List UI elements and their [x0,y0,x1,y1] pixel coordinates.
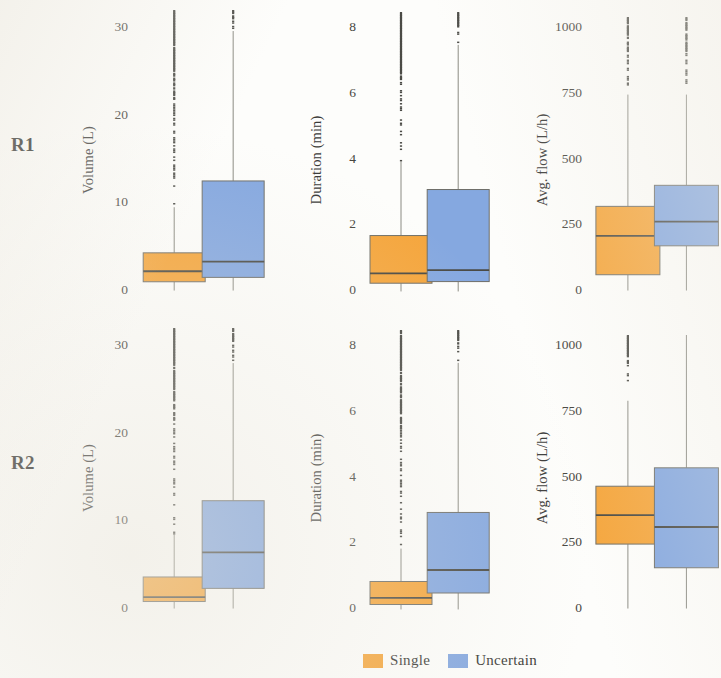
ytick-label: 30 [68,337,128,353]
panel-r1-volume-l [134,4,268,313]
axis-title-r2-0: Volume (L) [80,444,97,512]
ytick-label: 750 [522,403,582,419]
ytick-label: 8 [296,337,356,353]
ytick-label: 750 [522,85,582,101]
ytick-label: 0 [522,600,582,616]
ytick-label: 0 [296,282,356,298]
ytick-label: 250 [522,216,582,232]
ytick-label: 0 [296,600,356,616]
legend-item-uncertain: Uncertain [448,652,537,669]
ytick-label: 6 [296,85,356,101]
ytick-label: 250 [522,534,582,550]
panel-r1-avg-flow-l-h [588,11,721,313]
ytick-label: 500 [522,469,582,485]
ytick-label: 4 [296,469,356,485]
ytick-label: 6 [296,403,356,419]
ytick-label: 1000 [522,337,582,353]
ytick-label: 10 [68,512,128,528]
ytick-label: 1000 [522,19,582,35]
panel-r2-volume-l [134,322,268,631]
row-label-r1: R1 [11,134,35,156]
axis-title-r1-0: Volume (L) [80,126,97,194]
row-label-r2: R2 [11,452,35,474]
ytick-label: 0 [522,282,582,298]
ytick-label: 0 [68,282,128,298]
panel-r2-avg-flow-l-h [588,329,721,631]
ytick-label: 20 [68,425,128,441]
ytick-label: 10 [68,194,128,210]
ytick-label: 2 [296,534,356,550]
ytick-label: 20 [68,107,128,123]
ytick-label: 2 [296,216,356,232]
boxplot-figure: R1 R2 Volume (L)0102030Duration (min)024… [0,0,721,678]
panel-r2-duration-min [362,324,492,631]
ytick-label: 500 [522,151,582,167]
legend-swatch-single [363,654,383,668]
panel-r1-duration-min [362,6,492,313]
legend-label-single: Single [390,652,430,669]
legend: Single Uncertain [363,652,537,669]
ytick-label: 8 [296,19,356,35]
ytick-label: 30 [68,19,128,35]
legend-swatch-uncertain [448,654,468,668]
ytick-label: 4 [296,151,356,167]
ytick-label: 0 [68,600,128,616]
legend-item-single: Single [363,652,430,669]
legend-label-uncertain: Uncertain [475,652,537,669]
